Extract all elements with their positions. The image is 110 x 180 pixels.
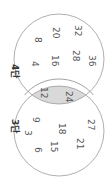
set-4-item: 36 xyxy=(87,55,97,67)
set-4-label: 4단 xyxy=(10,64,21,79)
intersection-item: 12 xyxy=(39,87,49,98)
set-4-item: 4 xyxy=(30,61,40,67)
set-3-item: 6 xyxy=(33,147,43,153)
set-3-item: 27 xyxy=(86,119,96,130)
set-3-item: 9 xyxy=(31,117,41,123)
set-3-item: 15 xyxy=(49,141,59,152)
set-3-item: 3 xyxy=(23,130,33,136)
venn-diagram: 4단 3단 4 8 16 20 28 32 36 12 24 3 6 9 15 … xyxy=(0,0,110,180)
set-4-item: 16 xyxy=(50,55,60,67)
set-4-item: 8 xyxy=(33,37,43,43)
set-3-item: 18 xyxy=(57,123,67,135)
set-4-item: 32 xyxy=(73,25,83,36)
intersection-item: 24 xyxy=(64,91,74,103)
set-4-item: 20 xyxy=(51,27,61,39)
set-3-label: 3단 xyxy=(10,119,21,134)
set-4-item: 28 xyxy=(71,50,81,62)
set-3-item: 21 xyxy=(75,138,85,149)
